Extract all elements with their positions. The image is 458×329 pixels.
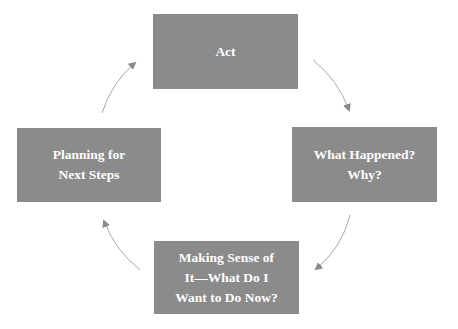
step-what-happened-label: What Happened? Why?: [314, 145, 416, 185]
arrow-planning-to-act: [102, 63, 135, 113]
step-act-label: Act: [215, 42, 235, 62]
step-making-sense-label: Making Sense of It—What Do I Want to Do …: [175, 248, 277, 308]
arrow-what-happened-to-making-sense: [316, 215, 350, 269]
step-planning-label: Planning for Next Steps: [53, 145, 125, 185]
step-planning-box: Planning for Next Steps: [17, 128, 161, 202]
step-act-box: Act: [153, 14, 298, 89]
step-what-happened-box: What Happened? Why?: [292, 127, 437, 202]
step-making-sense-box: Making Sense of It—What Do I Want to Do …: [154, 241, 299, 314]
arrow-act-to-what-happened: [313, 60, 349, 110]
arrow-making-sense-to-planning: [104, 221, 140, 270]
